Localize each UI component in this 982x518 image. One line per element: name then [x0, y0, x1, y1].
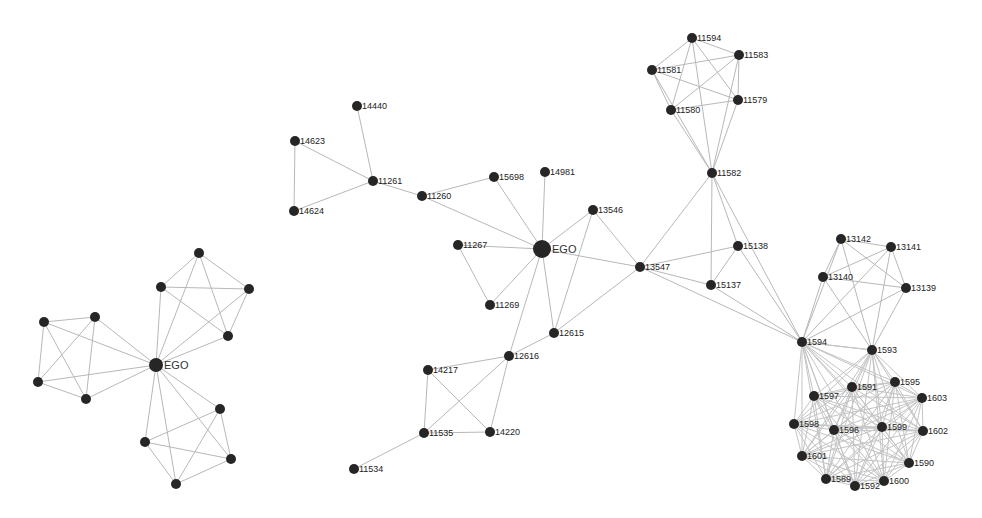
graph-node[interactable]: [453, 240, 463, 250]
graph-node[interactable]: [156, 282, 166, 292]
graph-node[interactable]: [901, 283, 911, 293]
node-label: 13139: [911, 283, 936, 293]
edge: [424, 370, 428, 433]
graph-node[interactable]: [588, 205, 598, 215]
graph-node[interactable]: [867, 345, 877, 355]
edge: [156, 365, 176, 484]
edge: [428, 370, 490, 432]
node-label: 11580: [676, 105, 700, 115]
node-label: 1590: [914, 458, 934, 468]
graph-node[interactable]: [540, 167, 550, 177]
graph-node[interactable]: [809, 391, 819, 401]
graph-node[interactable]: [666, 105, 676, 115]
edge: [156, 289, 249, 365]
ego-node[interactable]: [533, 240, 551, 258]
graph-node[interactable]: [733, 95, 743, 105]
graph-node[interactable]: [289, 206, 299, 216]
graph-node[interactable]: [635, 262, 645, 272]
graph-node[interactable]: [171, 479, 181, 489]
edge: [855, 398, 922, 486]
edge: [823, 277, 872, 350]
graph-node[interactable]: [733, 241, 743, 251]
graph-node[interactable]: [352, 101, 362, 111]
edge: [712, 55, 739, 173]
graph-node[interactable]: [687, 33, 697, 43]
node-label: 1600: [889, 476, 909, 486]
node-label: 11269: [495, 300, 519, 310]
node-label: 1603: [927, 393, 947, 403]
edge: [44, 317, 95, 322]
graph-node[interactable]: [504, 351, 514, 361]
graph-node[interactable]: [706, 280, 716, 290]
graph-node[interactable]: [829, 425, 839, 435]
node-label: 1602: [928, 426, 948, 436]
node-label: 1589: [831, 474, 851, 484]
graph-node[interactable]: [349, 464, 359, 474]
graph-node[interactable]: [423, 365, 433, 375]
node-label: 1592: [860, 481, 880, 491]
graph-node[interactable]: [140, 437, 150, 447]
edge: [44, 322, 86, 399]
graph-node[interactable]: [734, 50, 744, 60]
right-edges: [294, 38, 923, 486]
ego-node[interactable]: [149, 358, 163, 372]
graph-node[interactable]: [290, 136, 300, 146]
graph-node[interactable]: [223, 331, 233, 341]
network-graph-canvas: EGO EGO144401462314624112611126015698149…: [0, 0, 982, 518]
graph-node[interactable]: [417, 191, 427, 201]
graph-node[interactable]: [485, 300, 495, 310]
graph-node[interactable]: [918, 426, 928, 436]
graph-node[interactable]: [821, 474, 831, 484]
graph-node[interactable]: [485, 427, 495, 437]
graph-node[interactable]: [707, 168, 717, 178]
node-label: 12616: [514, 351, 539, 361]
node-label: 14220: [495, 427, 520, 437]
graph-node[interactable]: [489, 172, 499, 182]
left-ego-network: EGO: [33, 248, 254, 489]
edge: [802, 247, 891, 342]
edge: [294, 141, 295, 211]
edge: [145, 442, 231, 459]
node-label: 13547: [645, 262, 670, 272]
graph-node[interactable]: [797, 451, 807, 461]
edge: [802, 239, 841, 342]
edge: [640, 267, 802, 342]
graph-node[interactable]: [904, 458, 914, 468]
edge: [156, 253, 199, 365]
edge: [44, 322, 156, 365]
graph-node[interactable]: [33, 377, 43, 387]
graph-node[interactable]: [39, 317, 49, 327]
edge: [671, 110, 712, 173]
node-label: 11594: [697, 33, 721, 43]
edge: [199, 253, 249, 289]
graph-node[interactable]: [194, 248, 204, 258]
edge: [156, 365, 220, 409]
edge: [95, 317, 156, 365]
graph-node[interactable]: [886, 242, 896, 252]
graph-node[interactable]: [419, 428, 429, 438]
graph-node[interactable]: [797, 337, 807, 347]
graph-node[interactable]: [847, 382, 857, 392]
graph-node[interactable]: [818, 272, 828, 282]
graph-node[interactable]: [789, 419, 799, 429]
graph-node[interactable]: [890, 377, 900, 387]
node-label: 1594: [807, 337, 827, 347]
graph-node[interactable]: [549, 328, 559, 338]
graph-node[interactable]: [879, 476, 889, 486]
graph-node[interactable]: [215, 404, 225, 414]
graph-node[interactable]: [836, 234, 846, 244]
graph-node[interactable]: [244, 284, 254, 294]
graph-node[interactable]: [368, 176, 378, 186]
graph-node[interactable]: [81, 394, 91, 404]
edge: [542, 172, 545, 249]
node-label: 13141: [896, 242, 921, 252]
edge: [711, 285, 802, 342]
graph-node[interactable]: [647, 65, 657, 75]
graph-node[interactable]: [226, 454, 236, 464]
graph-node[interactable]: [917, 393, 927, 403]
node-label: 11579: [743, 95, 767, 105]
graph-node[interactable]: [877, 422, 887, 432]
graph-node[interactable]: [850, 481, 860, 491]
edge: [652, 70, 712, 173]
graph-node[interactable]: [90, 312, 100, 322]
